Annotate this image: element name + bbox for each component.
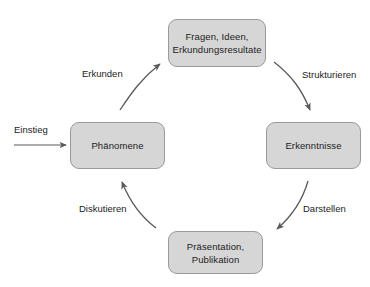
node-praesentation-publikation: Präsentation, Publikation <box>168 231 263 274</box>
node-erkenntnisse: Erkenntnisse <box>266 122 361 169</box>
edge-label-erkunden: Erkunden <box>82 68 123 80</box>
arrow-erkunden <box>120 64 160 110</box>
edge-label-strukturieren: Strukturieren <box>302 69 356 81</box>
node-label: Präsentation, Publikation <box>183 240 248 266</box>
node-phaenomene: Phänomene <box>70 122 165 169</box>
node-fragen-ideen-erkundungsresultate: Fragen, Ideen, Erkundungsresultate <box>168 19 266 67</box>
arrow-diskutieren <box>122 182 156 228</box>
cycle-diagram: Fragen, Ideen, Erkundungsresultate Erken… <box>0 0 370 287</box>
edge-label-diskutieren: Diskutieren <box>79 203 127 215</box>
node-label: Phänomene <box>87 139 147 152</box>
edge-label-darstellen: Darstellen <box>303 203 346 215</box>
node-label: Erkenntnisse <box>281 139 345 152</box>
node-label: Fragen, Ideen, Erkundungsresultate <box>168 30 265 56</box>
edge-label-einstieg: Einstieg <box>14 124 48 136</box>
